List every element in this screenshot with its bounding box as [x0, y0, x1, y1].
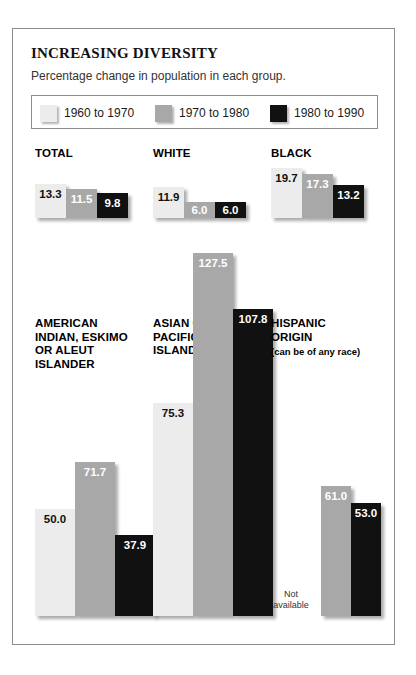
- bar-asian-1970-1980: 127.5: [193, 253, 233, 616]
- legend-swatch-light: [40, 105, 57, 122]
- chart-legend: 1960 to 1970 1970 to 1980 1980 to 1990: [31, 95, 378, 129]
- bar-black-1970-1980: 17.3: [302, 174, 333, 218]
- bar-value: 6.0: [184, 204, 215, 216]
- bar-value: 9.8: [97, 197, 128, 209]
- bar-asian-1960-1970: 75.3: [153, 403, 193, 616]
- bar-value: 71.7: [75, 466, 115, 478]
- group-subtitle-hispanic: (can be of any race): [271, 346, 360, 357]
- bar-value: 37.9: [115, 539, 155, 551]
- bar-black-1980-1990: 13.2: [333, 185, 364, 218]
- legend-item-1970-1980: 1970 to 1980: [155, 103, 249, 123]
- legend-label: 1970 to 1980: [179, 106, 249, 120]
- legend-item-1960-1970: 1960 to 1970: [40, 103, 134, 123]
- bar-total-1980-1990: 9.8: [97, 193, 128, 218]
- group-title-total: TOTAL: [35, 147, 73, 161]
- bar-value: 11.5: [66, 193, 97, 205]
- bar-hispanic-1980-1990: 53.0: [351, 503, 381, 616]
- bar-american-indian-1960-1970: 50.0: [35, 509, 75, 616]
- bar-black-1960-1970: 19.7: [271, 168, 302, 218]
- bar-value: 127.5: [193, 257, 233, 269]
- group-title-white: WHITE: [153, 147, 191, 161]
- bar-value: 53.0: [351, 507, 381, 519]
- bar-value: 61.0: [321, 490, 351, 502]
- legend-item-1980-1990: 1980 to 1990: [270, 103, 364, 123]
- bar-white-1970-1980: 6.0: [184, 202, 215, 218]
- legend-label: 1980 to 1990: [294, 106, 364, 120]
- bar-white-1980-1990: 6.0: [215, 202, 246, 218]
- chart-frame: INCREASING DIVERSITY Percentage change i…: [12, 28, 395, 645]
- group-title-hispanic: HISPANIC ORIGIN: [271, 317, 326, 344]
- bar-value: 6.0: [215, 204, 246, 216]
- bar-value: 17.3: [302, 178, 333, 190]
- chart-subtitle: Percentage change in population in each …: [31, 69, 286, 83]
- group-title-american-indian: AMERICAN INDIAN, ESKIMO OR ALEUT ISLANDE…: [35, 317, 128, 371]
- bar-value: 13.2: [333, 189, 364, 201]
- bar-asian-1980-1990: 107.8: [233, 309, 273, 616]
- bar-value: 75.3: [153, 407, 193, 419]
- chart-title: INCREASING DIVERSITY: [31, 45, 218, 62]
- bar-value: 19.7: [271, 172, 302, 184]
- bar-value: 11.9: [153, 191, 184, 203]
- bar-value: 50.0: [35, 513, 75, 525]
- group-title-black: BLACK: [271, 147, 312, 161]
- bar-total-1960-1970: 13.3: [35, 184, 66, 218]
- bar-white-1960-1970: 11.9: [153, 187, 184, 218]
- bar-american-indian-1980-1990: 37.9: [115, 535, 155, 616]
- bar-value: 107.8: [233, 313, 273, 325]
- bar-american-indian-1970-1980: 71.7: [75, 462, 115, 616]
- bar-total-1970-1980: 11.5: [66, 189, 97, 218]
- legend-swatch-dark: [270, 105, 287, 122]
- bar-hispanic-1970-1980: 61.0: [321, 486, 351, 616]
- bar-value: 13.3: [35, 188, 66, 200]
- not-available-note: Not available: [263, 589, 319, 610]
- legend-label: 1960 to 1970: [64, 106, 134, 120]
- legend-swatch-mid: [155, 105, 172, 122]
